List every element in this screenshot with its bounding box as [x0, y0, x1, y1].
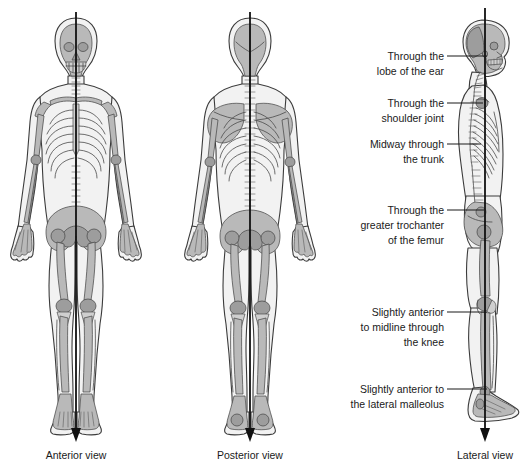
callout-knee-line-2: to midline through — [361, 321, 445, 333]
anterior-view-figure — [11, 12, 142, 442]
posterior-plumb-arrowhead — [245, 428, 255, 442]
anterior-plumb-arrowhead — [71, 428, 81, 442]
callout-shoulder-joint-line-1: Through the — [387, 97, 444, 109]
posture-line-of-gravity-figure: Through the lobe of the ear Through the … — [0, 0, 529, 468]
callout-ear-lobe-line-1: Through the — [387, 50, 444, 62]
callout-greater-trochanter-line-3: of the femur — [388, 234, 445, 246]
callout-greater-trochanter-line-1: Through the — [387, 204, 444, 216]
callout-trunk-midway: Midway through the trunk — [370, 138, 445, 165]
callout-greater-trochanter: Through the greater trochanter of the fe… — [361, 204, 445, 246]
figure-canvas: Through the lobe of the ear Through the … — [0, 0, 529, 468]
callout-greater-trochanter-line-2: greater trochanter — [361, 219, 445, 231]
callout-shoulder-joint-line-2: shoulder joint — [382, 112, 445, 124]
callout-knee: Slightly anterior to midline through the… — [361, 306, 445, 348]
callout-knee-line-1: Slightly anterior — [372, 306, 445, 318]
callout-ear-lobe-line-2: lobe of the ear — [377, 65, 445, 77]
callout-lateral-malleolus-line-1: Slightly anterior to — [360, 383, 444, 395]
callout-trunk-midway-line-1: Midway through — [370, 138, 444, 150]
caption-lateral-view: Lateral view — [457, 449, 513, 461]
caption-anterior-view: Anterior view — [46, 449, 107, 461]
panel-captions: Anterior view Posterior view Lateral vie… — [46, 449, 514, 461]
posterior-view-figure — [185, 12, 316, 442]
lateral-view-figure — [459, 8, 519, 442]
callout-lateral-malleolus: Slightly anterior to the lateral malleol… — [351, 383, 445, 410]
callout-ear-lobe: Through the lobe of the ear — [377, 50, 445, 77]
callout-trunk-midway-line-2: the trunk — [403, 153, 445, 165]
caption-posterior-view: Posterior view — [217, 449, 283, 461]
callout-labels: Through the lobe of the ear Through the … — [351, 50, 445, 410]
callout-knee-line-3: the knee — [404, 336, 444, 348]
callout-lateral-malleolus-line-2: the lateral malleolus — [351, 398, 444, 410]
lateral-plumb-arrowhead — [480, 428, 490, 442]
callout-shoulder-joint: Through the shoulder joint — [382, 97, 445, 124]
